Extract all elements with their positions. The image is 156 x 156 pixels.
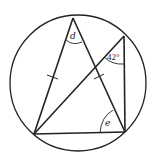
angle-label-d: d	[70, 31, 76, 41]
segment-upper-right-bottom-right	[124, 36, 125, 132]
segment-bottom-left-upper-right	[34, 36, 124, 134]
angle-label-42: 42°	[107, 52, 120, 62]
segment-top-bottom-right	[73, 18, 125, 132]
angle-label-e: e	[105, 118, 110, 128]
segment-bottom-left-bottom-right	[34, 132, 125, 134]
segment-top-bottom-left	[34, 18, 73, 134]
geometry-diagram: d 42° e	[0, 0, 156, 156]
